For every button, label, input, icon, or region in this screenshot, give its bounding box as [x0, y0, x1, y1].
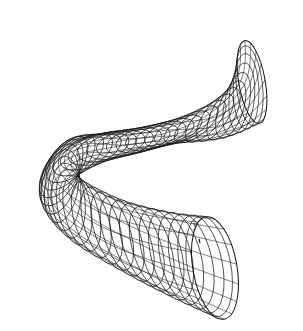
longitudinal-line — [76, 80, 265, 265]
wireframe-tube-diagram: y — [0, 0, 303, 331]
longitudinal-line — [39, 113, 248, 307]
y-axis-label: y — [192, 220, 199, 230]
cross-section-ring — [160, 209, 222, 313]
cross-section-ring — [94, 124, 157, 163]
cross-section-ring — [150, 208, 212, 310]
tube-mesh — [30, 38, 272, 323]
axis-tick — [199, 239, 200, 243]
longitudinal-line — [58, 45, 240, 223]
cross-section-ring — [141, 113, 198, 153]
longitudinal-line — [45, 84, 239, 271]
cross-section-ring — [132, 116, 190, 155]
